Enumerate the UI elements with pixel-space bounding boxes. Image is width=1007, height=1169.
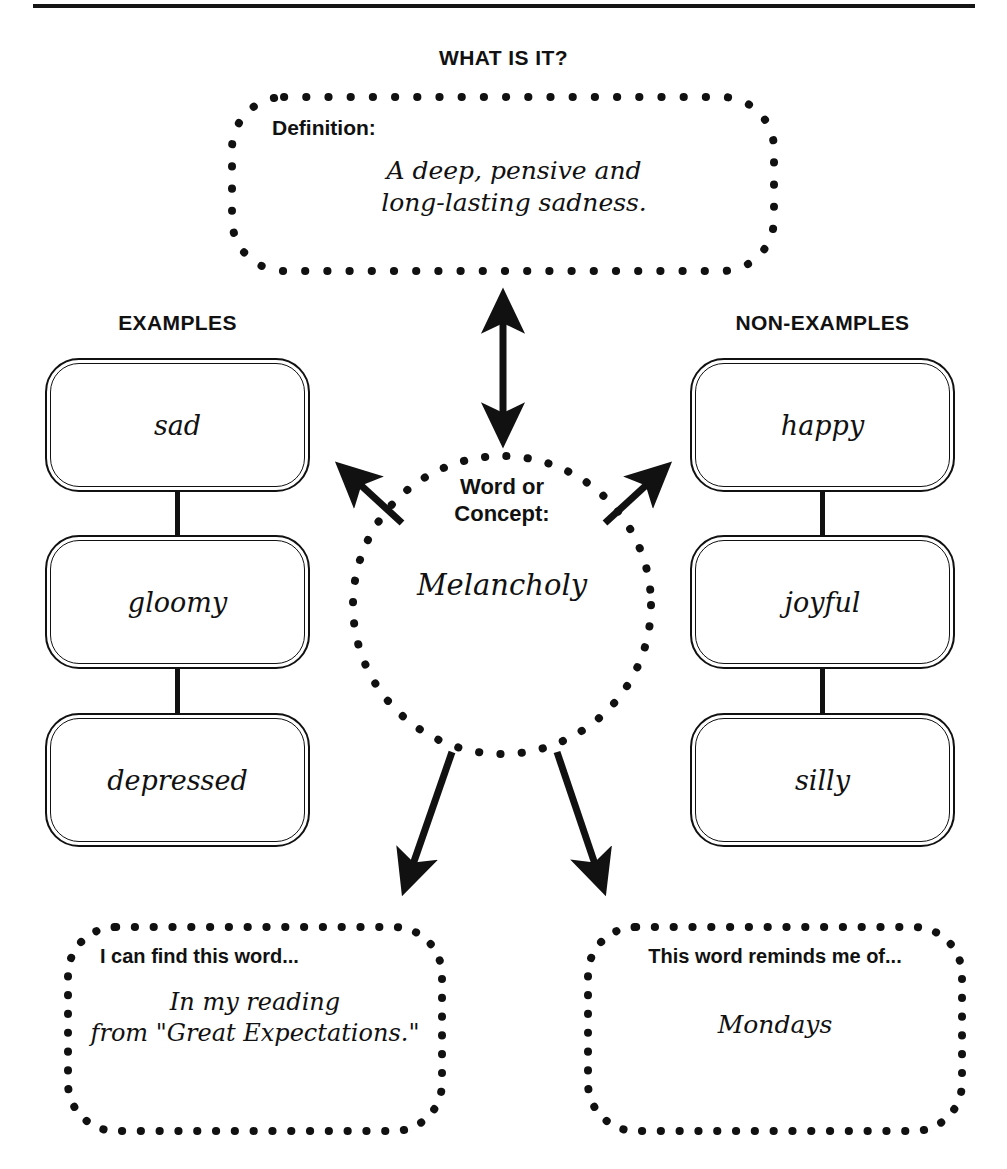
example-word: sad	[47, 360, 308, 490]
example-word: depressed	[47, 715, 308, 845]
definition-value: A deep, pensive and long-lasting sadness…	[228, 155, 778, 219]
find-word-value: In my reading from "Great Expectations."	[64, 987, 446, 1049]
non-example-box-2[interactable]: joyful	[690, 535, 955, 669]
example-box-1[interactable]: sad	[45, 358, 310, 492]
non-example-word: happy	[692, 360, 953, 490]
find-arrow	[410, 752, 452, 873]
find-word-label: I can find this word...	[64, 945, 446, 968]
reminds-me-box[interactable]: This word reminds me of... Mondays	[584, 923, 966, 1135]
example-box-2[interactable]: gloomy	[45, 535, 310, 669]
page-title: WHAT IS IT?	[0, 46, 1007, 70]
non-example-word: joyful	[692, 537, 953, 667]
reminds-me-label: This word reminds me of...	[584, 945, 966, 968]
non-example-connector-1	[820, 490, 825, 537]
concept-value: Melancholy	[349, 568, 655, 602]
non-example-box-3[interactable]: silly	[690, 713, 955, 847]
top-divider-rule	[33, 4, 975, 8]
concept-circle[interactable]: Word or Concept: Melancholy	[349, 452, 655, 758]
concept-label: Word or Concept:	[349, 474, 655, 528]
example-word: gloomy	[47, 537, 308, 667]
non-example-box-1[interactable]: happy	[690, 358, 955, 492]
examples-heading: EXAMPLES	[45, 311, 310, 335]
non-example-word: silly	[692, 715, 953, 845]
non-examples-heading: NON-EXAMPLES	[690, 311, 955, 335]
example-connector-2	[175, 667, 180, 715]
definition-box[interactable]: Definition: A deep, pensive and long-las…	[228, 93, 778, 275]
find-word-box[interactable]: I can find this word... In my reading fr…	[64, 923, 446, 1135]
frayer-model-worksheet: WHAT IS IT? EXAMPLES NON-EXAMPLES Defini…	[0, 0, 1007, 1169]
reminds-arrow	[557, 752, 598, 873]
reminds-me-value: Mondays	[584, 1009, 966, 1042]
definition-label: Definition:	[272, 116, 376, 140]
example-connector-1	[175, 490, 180, 537]
example-box-3[interactable]: depressed	[45, 713, 310, 847]
non-example-connector-2	[820, 667, 825, 715]
